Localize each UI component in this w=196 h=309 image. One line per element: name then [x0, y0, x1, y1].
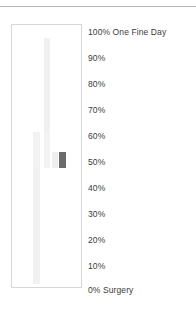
chart-bar: [44, 132, 50, 167]
axis-label-row: 100% One Fine Day: [88, 25, 196, 39]
axis-label-text: 60%: [88, 131, 105, 142]
axis-label-text: 90%: [88, 53, 105, 64]
axis-label-row: 50%: [88, 155, 196, 169]
axis-label-row: 20%: [88, 233, 196, 247]
axis-label-text: 30%: [88, 209, 105, 220]
axis-label-text: 10%: [88, 261, 105, 272]
page-root: 100% One Fine Day90%80%70%60%50%40%30%20…: [0, 0, 196, 309]
chart-bar: [52, 152, 58, 168]
axis-label-text: 70%: [88, 105, 105, 116]
axis-label-text: 80%: [88, 79, 105, 90]
axis-label-text: 40%: [88, 183, 105, 194]
bars-layer: [12, 25, 81, 287]
axis-label-row: 80%: [88, 77, 196, 91]
axis-label-text: 50%: [88, 157, 105, 168]
axis-label-row: 30%: [88, 207, 196, 221]
axis-label-row: 90%: [88, 51, 196, 65]
axis-label-row: 40%: [88, 181, 196, 195]
axis-label-column: 100% One Fine Day90%80%70%60%50%40%30%20…: [88, 24, 196, 288]
axis-label-row: 0% Surgery: [88, 283, 196, 297]
chart-plot-area: [11, 24, 82, 288]
chart-bar: [59, 152, 66, 168]
axis-label-text: 100% One Fine Day: [88, 27, 166, 38]
chart-bar: [33, 132, 40, 167]
axis-label-text: 0% Surgery: [88, 285, 133, 296]
axis-label-row: 60%: [88, 129, 196, 143]
axis-label-text: 20%: [88, 235, 105, 246]
axis-label-row: 70%: [88, 103, 196, 117]
top-divider-rule: [0, 6, 196, 7]
axis-label-row: 10%: [88, 259, 196, 273]
